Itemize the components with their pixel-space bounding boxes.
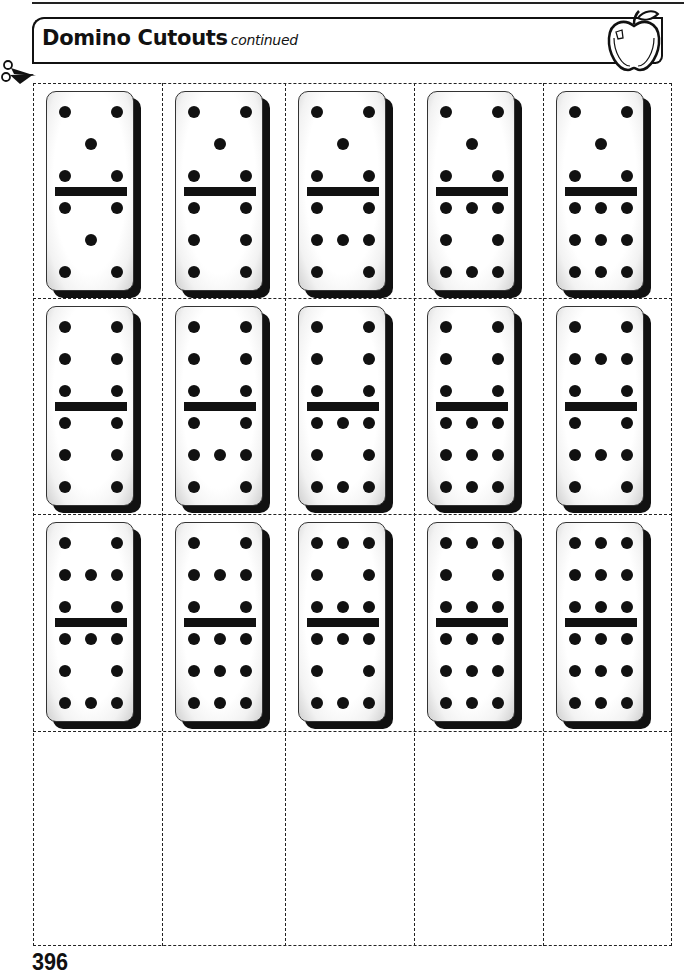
- pip-dot: [188, 417, 200, 429]
- pip-dot: [240, 449, 252, 461]
- top-rule: [32, 2, 684, 4]
- pip-dot: [240, 601, 252, 613]
- pip-dot: [311, 321, 323, 333]
- pip-dot: [466, 601, 478, 613]
- domino-face: [427, 91, 515, 291]
- domino-half-bot: [59, 417, 123, 493]
- domino-face: [556, 306, 644, 506]
- cut-line-horizontal: [33, 731, 672, 732]
- domino-half-bot: [569, 633, 633, 709]
- pip-dot: [188, 353, 200, 365]
- domino-half-bot: [569, 202, 633, 278]
- pip-dot: [363, 385, 375, 397]
- pip-dot: [59, 601, 71, 613]
- pip-dot: [337, 633, 349, 645]
- domino-divider-bar: [565, 402, 637, 411]
- pip-dot: [240, 385, 252, 397]
- pip-dot: [492, 353, 504, 365]
- pip-dot: [85, 138, 97, 150]
- pip-dot: [337, 697, 349, 709]
- pip-dot: [569, 417, 581, 429]
- pip-dot: [440, 449, 452, 461]
- pip-dot: [492, 697, 504, 709]
- pip-dot: [621, 417, 633, 429]
- pip-dot: [466, 481, 478, 493]
- domino-divider-bar: [307, 402, 379, 411]
- pip-dot: [621, 449, 633, 461]
- pip-dot: [492, 170, 504, 182]
- domino-half-top: [440, 321, 504, 397]
- pip-dot: [466, 138, 478, 150]
- pip-dot: [111, 353, 123, 365]
- pip-dot: [311, 417, 323, 429]
- pip-dot: [311, 537, 323, 549]
- pip-dot: [363, 266, 375, 278]
- pip-dot: [311, 449, 323, 461]
- pip-dot: [111, 697, 123, 709]
- pip-dot: [111, 106, 123, 118]
- pip-dot: [440, 353, 452, 365]
- pip-dot: [440, 321, 452, 333]
- pip-dot: [440, 170, 452, 182]
- pip-dot: [363, 449, 375, 461]
- pip-dot: [492, 449, 504, 461]
- pip-dot: [440, 106, 452, 118]
- pip-dot: [569, 449, 581, 461]
- domino-half-bot: [188, 202, 252, 278]
- pip-dot: [363, 106, 375, 118]
- domino-half-top: [569, 106, 633, 182]
- pip-dot: [240, 353, 252, 365]
- domino-half-bot: [569, 417, 633, 493]
- title-subtitle: continued: [231, 32, 298, 48]
- pip-dot: [311, 633, 323, 645]
- page-title: Domino Cutoutscontinued: [42, 26, 298, 50]
- pip-dot: [240, 202, 252, 214]
- pip-dot: [440, 385, 452, 397]
- domino-divider-bar: [307, 187, 379, 196]
- pip-dot: [492, 385, 504, 397]
- pip-dot: [440, 569, 452, 581]
- pip-dot: [337, 481, 349, 493]
- pip-dot: [595, 633, 607, 645]
- domino-tile: [175, 522, 263, 722]
- cut-line-horizontal: [33, 945, 672, 946]
- cut-line-horizontal: [33, 298, 672, 299]
- domino-tile: [556, 522, 644, 722]
- domino-tile: [175, 306, 263, 506]
- pip-dot: [188, 601, 200, 613]
- pip-dot: [492, 266, 504, 278]
- pip-dot: [59, 170, 71, 182]
- pip-dot: [363, 665, 375, 677]
- pip-dot: [188, 449, 200, 461]
- pip-dot: [363, 234, 375, 246]
- pip-dot: [569, 106, 581, 118]
- pip-dot: [595, 138, 607, 150]
- pip-dot: [59, 202, 71, 214]
- cut-line-vertical: [543, 83, 544, 946]
- pip-dot: [569, 569, 581, 581]
- domino-half-top: [188, 537, 252, 613]
- pip-dot: [311, 266, 323, 278]
- pip-dot: [569, 266, 581, 278]
- pip-dot: [188, 266, 200, 278]
- domino-half-top: [440, 537, 504, 613]
- pip-dot: [214, 633, 226, 645]
- domino-half-bot: [188, 417, 252, 493]
- pip-dot: [111, 569, 123, 581]
- cut-line-vertical: [671, 83, 672, 946]
- pip-dot: [214, 449, 226, 461]
- domino-half-bot: [440, 202, 504, 278]
- pip-dot: [492, 633, 504, 645]
- pip-dot: [569, 321, 581, 333]
- pip-dot: [111, 481, 123, 493]
- domino-half-bot: [311, 202, 375, 278]
- domino-tile: [556, 306, 644, 506]
- domino-half-bot: [59, 633, 123, 709]
- pip-dot: [111, 202, 123, 214]
- pip-dot: [111, 266, 123, 278]
- domino-half-top: [440, 106, 504, 182]
- pip-dot: [85, 234, 97, 246]
- pip-dot: [466, 449, 478, 461]
- domino-half-bot: [188, 633, 252, 709]
- pip-dot: [595, 266, 607, 278]
